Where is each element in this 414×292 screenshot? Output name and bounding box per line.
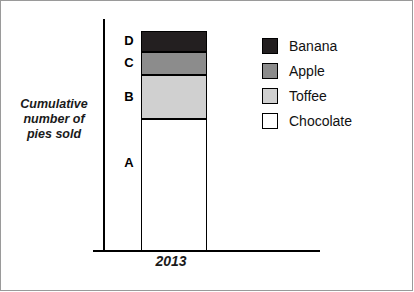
segment-label-d: D: [118, 33, 140, 48]
segment-label-b: B: [118, 89, 140, 104]
x-axis-tick-label: 2013: [131, 253, 211, 269]
legend-item-banana: Banana: [262, 33, 396, 58]
legend-label-toffee: Toffee: [289, 88, 327, 104]
y-axis-label: Cumulative number of pies sold: [8, 97, 100, 142]
y-axis-label-line-2: number of: [8, 112, 100, 127]
legend-swatch-banana: [262, 38, 278, 54]
legend: Banana Apple Toffee Chocolate: [262, 33, 396, 133]
legend-item-chocolate: Chocolate: [262, 108, 396, 133]
y-axis-label-line-3: pies sold: [8, 127, 100, 142]
legend-swatch-chocolate: [262, 113, 278, 129]
legend-swatch-toffee: [262, 88, 278, 104]
legend-swatch-apple: [262, 63, 278, 79]
bar-segment-apple: [141, 52, 207, 75]
bar-segment-toffee: [141, 75, 207, 119]
segment-label-a: A: [118, 155, 140, 170]
y-axis-line: [103, 19, 105, 251]
segment-label-c: C: [118, 55, 140, 70]
legend-item-apple: Apple: [262, 58, 396, 83]
chart-page: Cumulative number of pies sold D C B A 2…: [0, 0, 414, 292]
legend-label-chocolate: Chocolate: [289, 113, 352, 129]
legend-label-apple: Apple: [289, 63, 325, 79]
legend-item-toffee: Toffee: [262, 83, 396, 108]
legend-label-banana: Banana: [289, 38, 337, 54]
bar-segment-banana: [141, 31, 207, 52]
bar-segment-chocolate: [141, 119, 207, 251]
y-axis-label-line-1: Cumulative: [8, 97, 100, 112]
